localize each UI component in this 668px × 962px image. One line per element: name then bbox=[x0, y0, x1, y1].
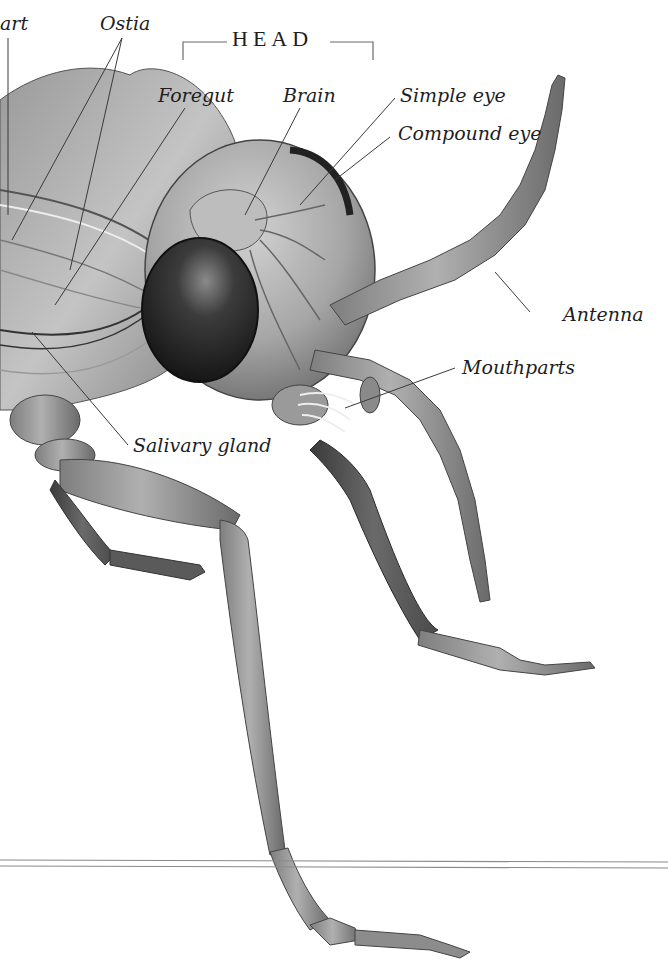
antenna-upper bbox=[330, 75, 565, 325]
label-heart: art bbox=[0, 14, 28, 33]
label-salivary-gland: Salivary gland bbox=[133, 436, 271, 455]
label-simple-eye: Simple eye bbox=[400, 86, 506, 105]
label-foregut: Foregut bbox=[158, 86, 234, 105]
label-mouthparts: Mouthparts bbox=[462, 358, 575, 377]
anatomy-diagram: HEAD art Ostia Foregut Brain Simple eye … bbox=[0, 0, 668, 962]
insect-illustration bbox=[0, 0, 668, 962]
head-section-title: HEAD bbox=[232, 28, 313, 50]
label-antenna: Antenna bbox=[563, 305, 644, 324]
label-brain: Brain bbox=[283, 86, 336, 105]
front-leg bbox=[10, 395, 470, 958]
label-ostia: Ostia bbox=[100, 14, 150, 33]
page-rule bbox=[0, 860, 668, 868]
label-compound-eye: Compound eye bbox=[398, 124, 542, 143]
